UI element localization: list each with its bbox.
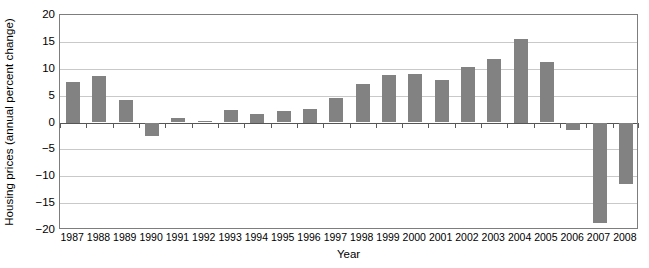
x-axis-tick-label: 2001 (429, 231, 452, 243)
chart-figure: Housing prices (annual percent change) 2… (0, 0, 649, 268)
x-axis-tick-mark (428, 123, 429, 128)
x-axis-title: Year (59, 248, 638, 260)
x-axis-tick-label: 2004 (508, 231, 531, 243)
x-axis-tick-mark (613, 123, 614, 128)
x-axis-tick-mark (271, 123, 272, 128)
x-axis-tick-mark (113, 123, 114, 128)
x-axis-tick-mark (86, 123, 87, 128)
x-axis-tick-label: 1989 (113, 231, 136, 243)
bar (566, 123, 580, 131)
x-axis-tick-mark (507, 123, 508, 128)
x-axis-tick-mark (376, 123, 377, 128)
x-axis-tick-label: 1993 (218, 231, 241, 243)
x-axis-tick-label: 2005 (534, 231, 557, 243)
y-axis-tick-label: 20 (42, 8, 55, 20)
x-axis-tick-mark (297, 123, 298, 128)
gridline (60, 42, 637, 43)
x-axis-tick-label: 1995 (271, 231, 294, 243)
x-axis-tick-label: 1996 (297, 231, 320, 243)
y-axis-tick-label: 15 (42, 35, 55, 47)
y-axis-tick-label: −20 (35, 223, 55, 235)
y-axis-tick-label: 5 (49, 89, 55, 101)
bar (119, 100, 133, 123)
x-axis-tick-label: 2007 (587, 231, 610, 243)
x-axis-tick-label: 1999 (376, 231, 399, 243)
plot-area (59, 14, 638, 229)
bar (92, 76, 106, 123)
bar (408, 74, 422, 123)
x-axis-tick-mark (455, 123, 456, 128)
plot-inner (60, 15, 637, 228)
x-axis-tick-mark (60, 123, 61, 128)
y-axis-tick-label: 10 (42, 62, 55, 74)
bar (487, 59, 501, 123)
x-axis-tick-label: 2006 (561, 231, 584, 243)
x-axis-tick-mark (638, 123, 639, 128)
bar (593, 123, 607, 224)
bar (435, 80, 449, 122)
bar (145, 123, 159, 137)
y-axis-title: Housing prices (annual percent change) (0, 14, 18, 229)
x-axis-tick-mark (534, 123, 535, 128)
x-axis-tick-label: 2002 (455, 231, 478, 243)
x-axis-tick-label: 1988 (87, 231, 110, 243)
x-axis-tick-label: 1987 (60, 231, 83, 243)
x-axis-tick-mark (139, 123, 140, 128)
x-axis-tick-mark (244, 123, 245, 128)
x-axis-tick-mark (218, 123, 219, 128)
bar (329, 98, 343, 123)
y-axis-tick-label: −5 (42, 142, 55, 154)
gridline (60, 149, 637, 150)
x-axis-tick-label: 1992 (192, 231, 215, 243)
y-axis-tick-label: −15 (35, 196, 55, 208)
x-axis-tick-labels: 1987198819891990199119921993199419951996… (59, 231, 638, 246)
y-axis-tick-label: −10 (35, 169, 55, 181)
x-axis-tick-label: 1997 (324, 231, 347, 243)
x-axis-tick-mark (586, 123, 587, 128)
bar (461, 67, 475, 123)
bar (224, 110, 238, 123)
x-axis-tick-mark (402, 123, 403, 128)
gridline (60, 176, 637, 177)
x-axis-tick-label: 1991 (166, 231, 189, 243)
bar (66, 82, 80, 122)
bar (619, 123, 633, 185)
x-axis-tick-label: 1998 (350, 231, 373, 243)
x-axis-tick-mark (165, 123, 166, 128)
x-axis-tick-label: 1994 (245, 231, 268, 243)
bar (250, 114, 264, 122)
x-axis-tick-label: 2003 (482, 231, 505, 243)
y-axis-title-text: Housing prices (annual percent change) (3, 18, 15, 226)
bar (277, 111, 291, 122)
x-axis-tick-mark (323, 123, 324, 128)
x-axis-tick-mark (350, 123, 351, 128)
x-axis-tick-label: 2008 (613, 231, 636, 243)
bar (382, 75, 396, 122)
x-axis-tick-mark (560, 123, 561, 128)
x-axis-tick-label: 1990 (139, 231, 162, 243)
x-axis-tick-mark (192, 123, 193, 128)
x-axis-tick-mark (481, 123, 482, 128)
x-axis-tick-label: 2000 (403, 231, 426, 243)
y-axis-tick-labels: 20151050−5−10−15−20 (18, 14, 58, 229)
bar (514, 39, 528, 122)
bar (198, 121, 212, 122)
bar (171, 118, 185, 123)
bar (540, 62, 554, 123)
bar (356, 84, 370, 123)
gridline (60, 203, 637, 204)
y-axis-tick-label: 0 (49, 116, 55, 128)
bar (303, 109, 317, 122)
